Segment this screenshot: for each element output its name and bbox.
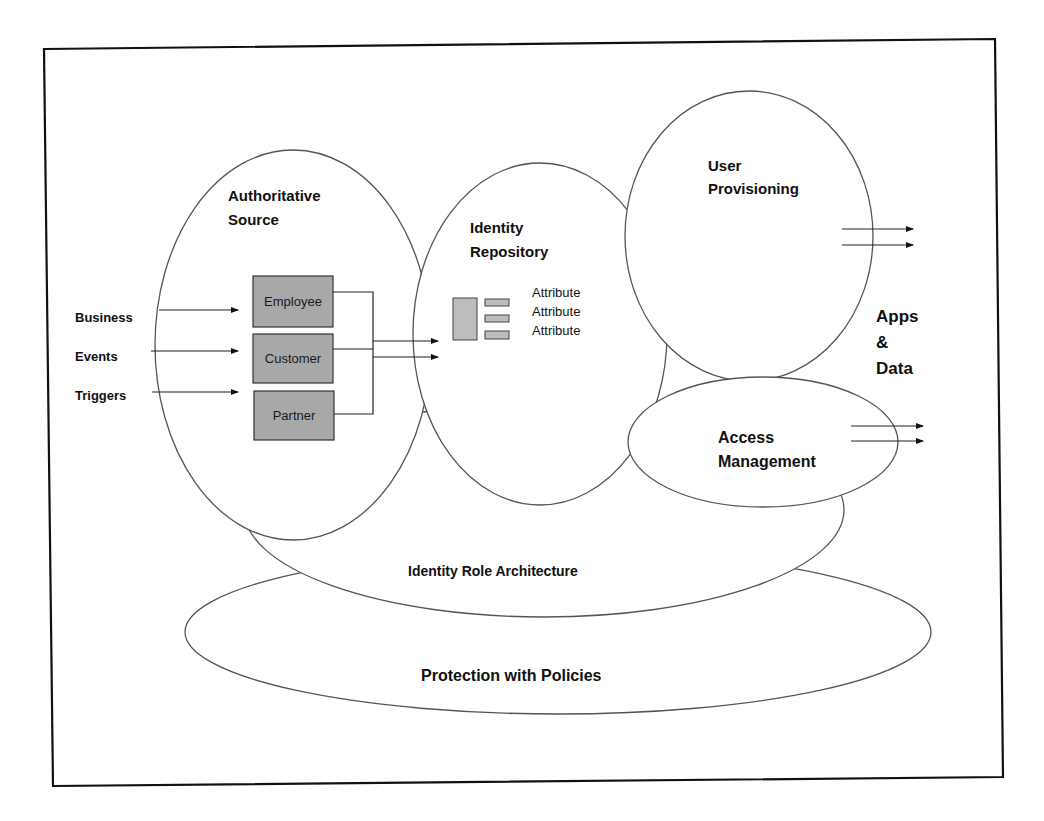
- user-provisioning-label-2: Provisioning: [708, 180, 799, 197]
- apps-data-label-3: Data: [876, 359, 913, 378]
- access-management-label-1: Access: [718, 429, 774, 446]
- identity-repository-label-2: Repository: [470, 243, 549, 260]
- customer-label: Customer: [265, 351, 322, 366]
- source-box-customer: Customer: [253, 334, 333, 383]
- identity-repository-label-1: Identity: [470, 219, 524, 236]
- apps-data-label-1: Apps: [876, 307, 919, 326]
- apps-data-label-2: &: [876, 333, 888, 352]
- input-label-events: Events: [75, 349, 118, 364]
- source-box-partner: Partner: [254, 391, 334, 440]
- architecture-diagram: Authoritative Source Business Events Tri…: [0, 0, 1044, 821]
- attribute-label-3: Attribute: [532, 323, 580, 338]
- identity-role-architecture-label: Identity Role Architecture: [408, 563, 578, 579]
- access-management-label-2: Management: [718, 453, 816, 470]
- input-label-business: Business: [75, 310, 133, 325]
- attribute-label-2: Attribute: [532, 304, 580, 319]
- source-box-employee: Employee: [253, 276, 333, 327]
- partner-label: Partner: [273, 408, 316, 423]
- employee-label: Employee: [264, 294, 322, 309]
- authoritative-source-label-1: Authoritative: [228, 187, 321, 204]
- user-provisioning-ellipse: [625, 91, 873, 381]
- attribute-label-1: Attribute: [532, 285, 580, 300]
- protection-with-policies-label: Protection with Policies: [421, 667, 602, 684]
- input-label-triggers: Triggers: [75, 388, 126, 403]
- authoritative-source-label-2: Source: [228, 211, 279, 228]
- user-provisioning-label-1: User: [708, 157, 742, 174]
